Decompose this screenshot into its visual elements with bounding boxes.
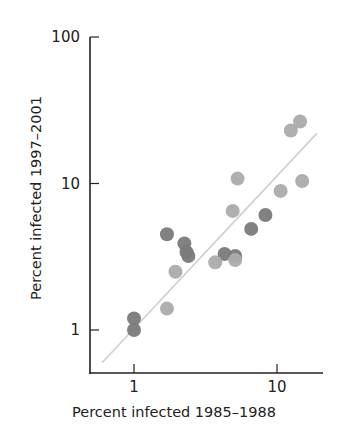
data-point — [258, 208, 272, 222]
data-point — [295, 174, 309, 188]
axes — [89, 37, 323, 374]
y-tick-label: 1 — [70, 321, 80, 339]
data-point — [160, 227, 174, 241]
data-point — [160, 302, 174, 316]
data-point — [208, 255, 222, 269]
data-point — [244, 222, 258, 236]
y-ticks: 110100 — [51, 28, 99, 339]
x-tick-label: 10 — [267, 378, 286, 396]
y-tick-label: 100 — [51, 28, 80, 46]
data-point — [226, 204, 240, 218]
y-tick-label: 10 — [61, 175, 80, 193]
data-point — [231, 172, 245, 186]
x-tick-label: 1 — [129, 378, 139, 396]
scatter-chart: 110100 110 Percent infected 1985–1988 Pe… — [0, 0, 348, 439]
y-axis-label: Percent infected 1997–2001 — [28, 96, 44, 300]
data-point — [293, 114, 307, 128]
data-point — [181, 249, 195, 263]
data-points — [127, 114, 309, 337]
data-point — [127, 311, 141, 325]
data-point — [168, 265, 182, 279]
data-point — [228, 253, 242, 267]
data-point — [274, 184, 288, 198]
x-ticks: 110 — [129, 364, 286, 396]
x-axis-label: Percent infected 1985–1988 — [72, 404, 276, 420]
